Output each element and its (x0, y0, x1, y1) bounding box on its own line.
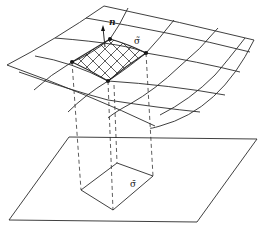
normal-label: n (109, 17, 116, 27)
vertex-dot (108, 37, 112, 41)
surface-left-edge (7, 6, 104, 65)
surface-bottom-edge (7, 65, 155, 126)
projected-element (81, 163, 153, 210)
diagram-figure: n σ̃ σ̄ (0, 0, 263, 231)
surface-right-edge (150, 40, 254, 128)
surface-element-label: σ̃ (134, 36, 140, 46)
curved-surface (7, 6, 254, 128)
projected-element-label: σ̄ (130, 179, 136, 189)
